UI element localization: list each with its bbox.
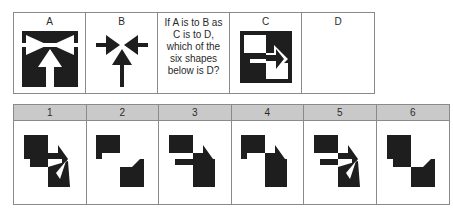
option-2-shape [96,135,148,187]
three-arrows-inward-icon [94,31,150,87]
cell-c-label: C [230,16,301,27]
option-1[interactable]: 1 [14,105,87,204]
option-3[interactable]: 3 [159,105,232,204]
option-6-label: 6 [377,105,450,121]
cell-c: C [230,13,302,93]
options-row: 1 2 3 4 [13,104,450,205]
cell-d: D [302,13,374,93]
option-2[interactable]: 2 [87,105,160,204]
cell-a-label: A [14,16,85,27]
option-1-label: 1 [14,105,86,121]
boxed-three-arrows-inward-icon [22,31,78,87]
cell-b-label: B [86,16,157,27]
option-4-label: 4 [232,105,304,121]
option-1-shape [24,135,76,187]
option-4[interactable]: 4 [232,105,305,204]
option-6-shape [387,135,439,187]
option-5-shape [314,135,366,187]
cell-a: A [14,13,86,93]
cell-b: B [86,13,158,93]
option-5-label: 5 [304,105,376,121]
option-6[interactable]: 6 [377,105,450,204]
option-3-label: 3 [159,105,231,121]
question-text: If A is to B as C is to D, which of the … [160,17,227,77]
option-3-shape [169,135,221,187]
analogy-row: A B If A is to B as C is to D, which of … [13,12,375,94]
cell-d-label: D [302,16,374,27]
option-2-label: 2 [87,105,159,121]
question-cell: If A is to B as C is to D, which of the … [158,13,230,93]
boxed-checker-arrow-icon [240,31,292,83]
option-4-shape [241,135,293,187]
option-5[interactable]: 5 [304,105,377,204]
